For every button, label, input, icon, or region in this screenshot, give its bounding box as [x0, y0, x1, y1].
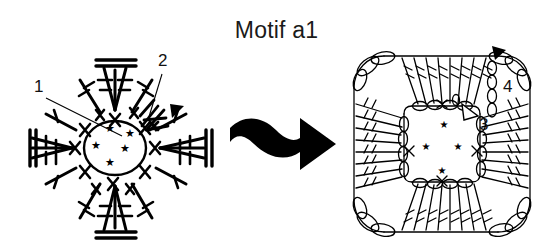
magic-ring: ★ ★ ★ ★ ★: [84, 121, 146, 175]
svg-text:★: ★: [120, 142, 130, 155]
west-stitch-cluster: [30, 130, 72, 166]
left-motif-diagram: ★ ★ ★ ★ ★: [18, 44, 228, 244]
north-stitch-cluster: [96, 60, 136, 110]
wavy-right-arrow-icon: [228, 104, 340, 184]
transition-arrow: [228, 104, 340, 184]
left-motif-svg: ★ ★ ★ ★ ★: [18, 44, 228, 244]
right-motif-svg: ★ ★ ★ ★: [340, 42, 545, 246]
page-title: Motif a1: [0, 16, 553, 44]
svg-text:★: ★: [125, 127, 135, 140]
svg-text:★: ★: [105, 156, 115, 169]
callout-3-label: 3: [479, 115, 488, 134]
svg-text:★: ★: [454, 141, 463, 152]
svg-text:★: ★: [91, 139, 101, 152]
right-motif-diagram: ★ ★ ★ ★: [340, 42, 545, 246]
south-stitch-cluster: [96, 186, 136, 238]
top-treble-fan: [402, 58, 492, 104]
right-treble-fan: [482, 98, 528, 188]
figure-canvas: Motif a1 ★ ★ ★ ★ ★: [0, 0, 553, 248]
left-treble-fan: [356, 98, 402, 188]
magic-ring-stars: ★ ★ ★ ★ ★: [91, 122, 135, 169]
svg-text:★: ★: [438, 165, 447, 176]
callout-4-label: 4: [503, 77, 512, 96]
east-stitch-cluster: [160, 130, 212, 166]
svg-text:★: ★: [422, 141, 431, 152]
svg-text:★: ★: [440, 119, 449, 130]
callout-2-label: 2: [158, 51, 167, 70]
inner-ring-stars: ★ ★ ★ ★: [422, 119, 463, 176]
callout-1-label: 1: [34, 77, 43, 96]
bottom-treble-fan: [402, 184, 492, 230]
